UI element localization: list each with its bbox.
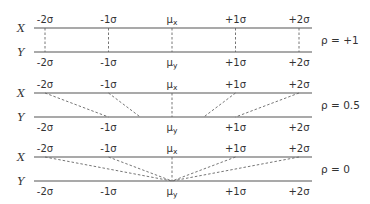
x-tick-label: +2σ [288, 14, 310, 25]
y-tick-label: μy [167, 122, 178, 135]
x-tick-label: -1σ [100, 14, 117, 25]
x-tick-label: +2σ [288, 143, 310, 154]
x-tick-label: +2σ [288, 79, 310, 90]
y-tick-label: μy [167, 186, 178, 199]
y-tick-label: +2σ [288, 57, 310, 68]
y-tick-label: -2σ [37, 122, 54, 133]
y-tick-label: μy [167, 57, 178, 70]
x-variable-label: X [16, 151, 26, 164]
y-tick-label: +1σ [225, 122, 247, 133]
y-variable-label: Y [17, 175, 26, 188]
y-tick-label: -2σ [37, 57, 54, 68]
y-tick-label: -1σ [100, 57, 117, 68]
x-tick-label: +1σ [225, 79, 247, 90]
mapping-connector [109, 93, 141, 117]
mapping-connector [236, 93, 300, 117]
y-tick-label: -1σ [100, 186, 117, 197]
y-tick-label: +2σ [288, 122, 310, 133]
y-variable-label: Y [17, 111, 26, 124]
x-tick-label: -2σ [37, 143, 54, 154]
mapping-connector [45, 93, 109, 117]
y-tick-label: +1σ [225, 186, 247, 197]
rho-label: ρ = +1 [321, 34, 359, 46]
x-tick-label: -2σ [37, 79, 54, 90]
x-tick-label: -2σ [37, 14, 54, 25]
rho-label: ρ = 0 [321, 163, 350, 175]
x-tick-label: -1σ [100, 79, 117, 90]
x-tick-label: μx [167, 143, 178, 156]
x-tick-label: μx [167, 14, 178, 27]
x-variable-label: X [16, 87, 26, 100]
mapping-connector [172, 157, 299, 181]
mapping-connector [109, 157, 173, 181]
x-variable-label: X [16, 22, 26, 35]
rho-label: ρ = 0.5 [321, 99, 360, 111]
x-tick-label: μx [167, 79, 178, 92]
y-tick-label: -2σ [37, 186, 54, 197]
y-tick-label: +1σ [225, 57, 247, 68]
correlation-diagram: XY-2σ-2σ-1σ-1σμxμy+1σ+1σ+2σ+2σρ = +1XY-2… [0, 0, 370, 204]
mapping-connector [204, 93, 236, 117]
mapping-connector [172, 157, 236, 181]
y-variable-label: Y [17, 46, 26, 59]
x-tick-label: +1σ [225, 14, 247, 25]
x-tick-label: +1σ [225, 143, 247, 154]
y-tick-label: +2σ [288, 186, 310, 197]
y-tick-label: -1σ [100, 122, 117, 133]
x-tick-label: -1σ [100, 143, 117, 154]
mapping-connector [45, 157, 172, 181]
